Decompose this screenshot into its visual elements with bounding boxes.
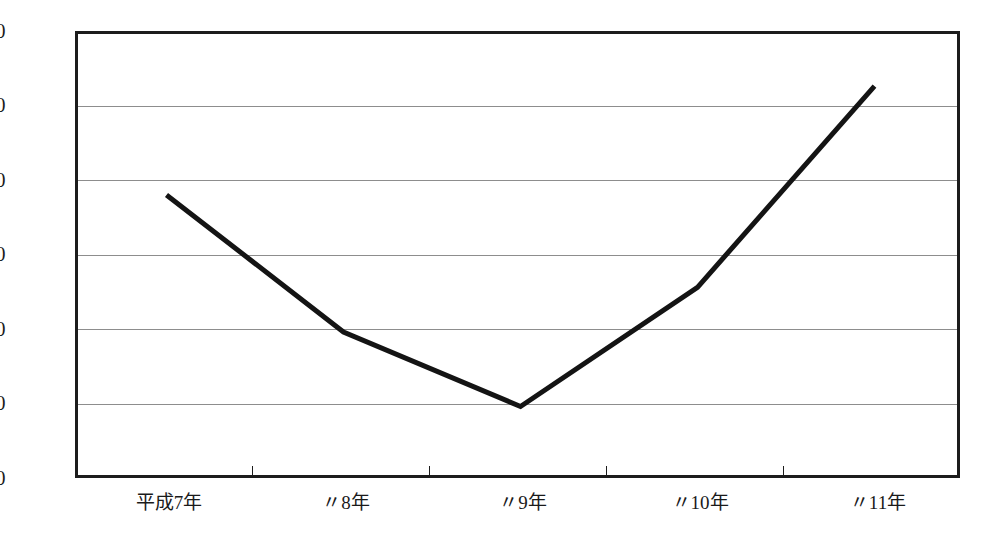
y-tick-label-250: 250: [0, 95, 6, 115]
x-tick-2: [429, 466, 430, 475]
gridline-100: [78, 329, 957, 330]
x-tick-label-heisei-7: 平成7年: [136, 492, 203, 514]
gridline-50: [78, 404, 957, 405]
y-tick-label-200: 200: [0, 170, 6, 190]
series-line: [78, 34, 963, 481]
x-tick-4: [783, 466, 784, 475]
y-tick-label-100: 100: [0, 319, 6, 339]
gridline-150: [78, 255, 957, 256]
x-tick-3: [606, 466, 607, 475]
y-tick-label-300: 300: [0, 21, 6, 41]
x-tick-label-heisei-9: 〃9年: [499, 492, 547, 514]
y-tick-label-50: 50: [0, 393, 6, 413]
x-tick-1: [252, 466, 253, 475]
plot-area: [75, 31, 960, 478]
x-tick-label-heisei-11: 〃11年: [850, 492, 906, 514]
gridline-250: [78, 106, 957, 107]
line-chart: 300 250 200 150 100 50 0 平成7年 〃8年 〃9年 〃1…: [0, 0, 994, 550]
x-tick-label-heisei-8: 〃8年: [322, 492, 370, 514]
y-tick-label-0: 0: [0, 468, 6, 488]
series-polyline: [167, 86, 875, 406]
y-tick-label-150: 150: [0, 244, 6, 264]
gridline-200: [78, 180, 957, 181]
x-tick-label-heisei-10: 〃10年: [672, 492, 729, 514]
